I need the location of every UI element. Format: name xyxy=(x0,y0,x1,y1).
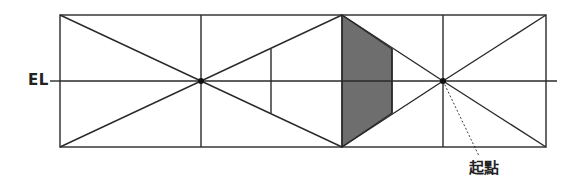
vanishing-point-left xyxy=(198,78,204,84)
vanishing-point-start xyxy=(440,78,446,84)
start-point-label: 起點 xyxy=(469,156,499,177)
diagonal xyxy=(443,15,546,81)
diagonal xyxy=(60,81,201,147)
perspective-diagram xyxy=(0,0,583,182)
diagonal xyxy=(60,15,201,81)
eye-level-label: EL xyxy=(28,71,49,89)
